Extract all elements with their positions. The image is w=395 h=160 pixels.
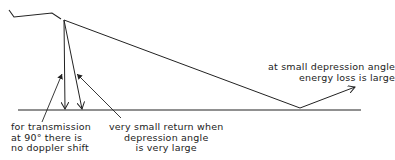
leader-left (42, 74, 62, 122)
beam-vertical (64, 20, 65, 109)
label-small-return: very small return when depression angle … (109, 122, 223, 154)
leader-middle (77, 74, 121, 118)
label-energy-loss: at small depression angle energy loss is… (268, 62, 395, 83)
beam-reflected (300, 87, 355, 108)
aircraft-outline (9, 10, 61, 19)
beam-shallow (64, 20, 300, 108)
label-no-doppler: for transmission at 90° there is no dopp… (11, 122, 91, 154)
beam-steep (64, 20, 82, 109)
